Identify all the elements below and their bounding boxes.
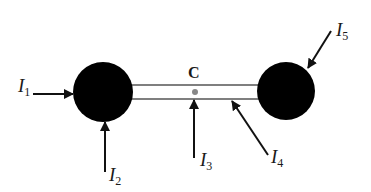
- label-i4: I4: [270, 146, 283, 170]
- right-sphere: [257, 62, 315, 120]
- label-i3: I3: [199, 149, 212, 173]
- center-point-label: C: [188, 64, 200, 81]
- arrow-i5: [308, 31, 331, 68]
- dumbbell-diagram: C I1 I2 I3 I4 I5: [0, 0, 371, 192]
- center-point-dot: [192, 89, 198, 95]
- left-sphere: [73, 62, 133, 122]
- diagram-svg: C I1 I2 I3 I4 I5: [0, 0, 371, 192]
- label-i1: I1: [17, 75, 30, 99]
- arrow-i4: [232, 101, 268, 155]
- label-i5: I5: [335, 19, 348, 43]
- label-i2: I2: [108, 164, 121, 188]
